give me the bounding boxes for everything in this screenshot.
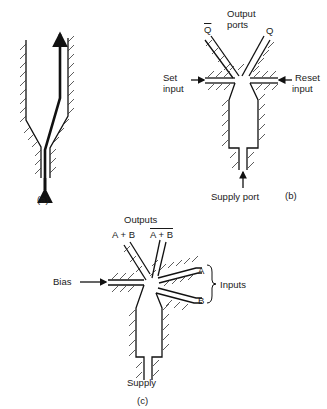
- output-ports-label-1: Output: [227, 8, 256, 19]
- outputs-label: Outputs: [124, 214, 157, 225]
- input-b-label: B: [198, 295, 204, 306]
- input-a-label: A: [198, 265, 204, 276]
- inputs-label: Inputs: [220, 279, 246, 290]
- output-nor-label: A + B: [150, 229, 173, 240]
- set-input-label-2: input: [163, 83, 184, 94]
- fluidic-diagrams: [0, 0, 327, 409]
- diagram-b: [191, 36, 292, 188]
- q-bar-label: Q: [204, 24, 211, 35]
- diagram-c: [80, 240, 216, 380]
- output-or-label: A + B: [112, 229, 135, 240]
- set-input-label-1: Set: [163, 72, 177, 83]
- diagram-a: [20, 34, 74, 190]
- supply-label: Supply: [127, 377, 156, 388]
- q-label: Q: [266, 25, 273, 36]
- caption-b: (b): [285, 190, 297, 201]
- output-ports-label-2: ports: [227, 19, 248, 30]
- bias-label: Bias: [53, 276, 71, 287]
- reset-input-label-2: input: [292, 83, 313, 94]
- caption-a: (a): [37, 194, 49, 205]
- reset-input-label-1: Reset: [295, 72, 320, 83]
- supply-port-label: Supply port: [211, 191, 259, 202]
- caption-c: (c): [137, 395, 148, 406]
